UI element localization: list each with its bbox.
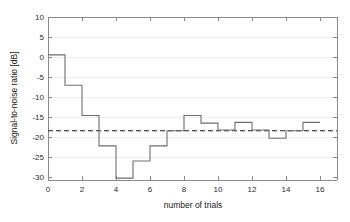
y-tick-label: -10 (32, 93, 44, 102)
snr-step-chart: 10 5 0 -5 -10 -15 -20 -25 -30 0 2 4 6 8 … (0, 0, 350, 222)
x-tick-label: 2 (80, 185, 85, 194)
y-tick-label: 5 (40, 33, 45, 42)
x-tick-label: 0 (46, 185, 51, 194)
y-tick-label: 0 (40, 53, 45, 62)
x-tick-label: 16 (316, 185, 325, 194)
y-tick-label: -25 (32, 153, 44, 162)
x-tick-label: 6 (148, 185, 153, 194)
y-tick-label: 10 (35, 13, 44, 22)
x-tick-label: 8 (182, 185, 187, 194)
figure-container: 10 5 0 -5 -10 -15 -20 -25 -30 0 2 4 6 8 … (0, 0, 350, 222)
y-tick-label: -20 (32, 133, 44, 142)
x-tick-label: 12 (248, 185, 257, 194)
y-tick-label: -30 (32, 173, 44, 182)
x-tick-label: 10 (214, 185, 223, 194)
y-axis-title: Signal-to-noise ratio [dB] (9, 51, 19, 144)
x-tick-label: 14 (282, 185, 291, 194)
x-axis-title: number of trials (164, 200, 223, 210)
y-tick-labels: 10 5 0 -5 -10 -15 -20 -25 -30 (32, 13, 44, 182)
x-tick-labels: 0 2 4 6 8 10 12 14 16 (46, 185, 325, 194)
y-tick-label: -15 (32, 113, 44, 122)
plot-area-background (48, 17, 337, 180)
y-tick-label: -5 (37, 73, 45, 82)
x-tick-label: 4 (114, 185, 119, 194)
